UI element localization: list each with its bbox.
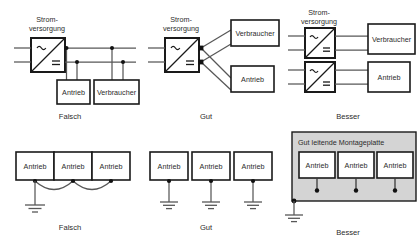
junction-dot [109,179,113,183]
block-antrieb-label: Antrieb [241,75,264,84]
junction-dot [65,46,69,50]
caption-bottom-better: Besser [336,228,360,237]
junction-dot [110,46,114,50]
block-antrieb-label: Antrieb [24,162,47,171]
block-verbraucher-label: Verbraucher [235,29,275,38]
block-antrieb-label: Antrieb [306,161,329,170]
panel-top-good: Strom- versorgung Verbraucher Antrieb Gu… [148,15,279,121]
panel-bottom-good: Antrieb Antrieb Antrieb Gut [150,152,272,232]
ground-icon [285,215,303,222]
ground-chain-wire-2-3 [73,181,111,190]
caption-top-wrong: Falsch [59,112,81,121]
junction-dot [167,179,171,183]
block-antrieb-label: Antrieb [62,88,85,97]
terminal-dot [199,46,204,51]
junction-dot [75,60,79,64]
bond-point-dot [393,188,397,192]
junction-dot [251,179,255,183]
junction-dot [209,179,213,183]
caption-top-good: Gut [200,112,213,121]
emc-wiring-diagram: Strom- versorgung Antrieb Verbraucher [0,0,420,243]
caption-bottom-wrong: Falsch [59,223,81,232]
supply-label-line2: versorgung [29,24,65,33]
mounting-plate-label: Gut leitende Montageplatte [298,138,384,147]
star-wire-terminal1-to-verbraucher [201,30,231,48]
ground-icon [244,202,262,209]
ground-icon [25,205,45,212]
block-antrieb-label: Antrieb [345,161,368,170]
bond-point-dot [315,188,319,192]
caption-top-better: Besser [336,112,360,121]
block-antrieb-label: Antrieb [100,162,123,171]
ground-icon [202,202,220,209]
panel-top-wrong: Strom- versorgung Antrieb Verbraucher [14,15,139,121]
block-antrieb-label: Antrieb [384,161,407,170]
panel-bottom-better: Gut leitende Montageplatte Antrieb Antri… [285,132,416,237]
supply-label-line1: Strom- [36,15,58,24]
block-antrieb-label: Antrieb [242,162,265,171]
star-wire-terminal2-to-antrieb [201,62,231,90]
ground-icon [160,202,178,209]
junction-dot [121,60,125,64]
block-antrieb-label: Antrieb [378,73,401,82]
bond-point-dot [354,188,358,192]
junction-dot [71,179,75,183]
panel-bottom-wrong: Antrieb Antrieb Antrieb Falsch [16,152,130,232]
block-antrieb-label: Antrieb [158,162,181,171]
supply-label-line1: Strom- [170,15,192,24]
supply-label-line2: versorgung [301,17,337,26]
block-antrieb-label: Antrieb [62,162,85,171]
supply-label-line2: versorgung [163,24,199,33]
block-verbraucher-label: Verbraucher [97,88,137,97]
terminal-dot [199,60,204,65]
diagram-canvas: Strom- versorgung Antrieb Verbraucher [0,0,420,243]
supply-label-line1: Strom- [308,8,330,17]
block-antrieb-label: Antrieb [200,162,223,171]
panel-top-better: Strom- versorgung Verbraucher Antrieb Be… [288,8,415,121]
block-verbraucher-label: Verbraucher [372,35,412,44]
ground-chain-wire-1-2 [35,181,73,190]
caption-bottom-good: Gut [200,223,213,232]
